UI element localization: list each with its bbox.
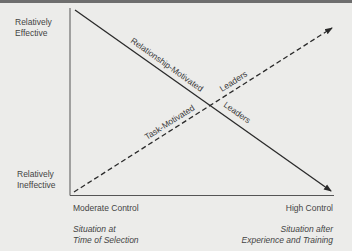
relationship-motivated-line xyxy=(75,10,331,191)
x-axis-right-caption: Situation after Experience and Training xyxy=(241,224,333,246)
x-axis-left-caption: Situation at Time of Selection xyxy=(73,224,139,246)
task-motivated-line xyxy=(74,28,332,192)
left-caption-line1: Situation at xyxy=(73,224,139,235)
right-caption-line2: Experience and Training xyxy=(241,235,333,246)
task-motivated-label: Task-Motivated xyxy=(143,102,197,141)
relationship-motivated-label: Relationship-Motivated xyxy=(129,35,206,93)
left-caption-line2: Time of Selection xyxy=(73,235,139,246)
right-caption-line1: Situation after xyxy=(241,224,333,235)
x-axis-right-label: High Control xyxy=(286,203,333,214)
x-axis-left-label: Moderate Control xyxy=(73,203,139,214)
relationship-leaders-label: Leaders xyxy=(222,99,253,125)
task-leaders-label: Leaders xyxy=(218,69,249,94)
